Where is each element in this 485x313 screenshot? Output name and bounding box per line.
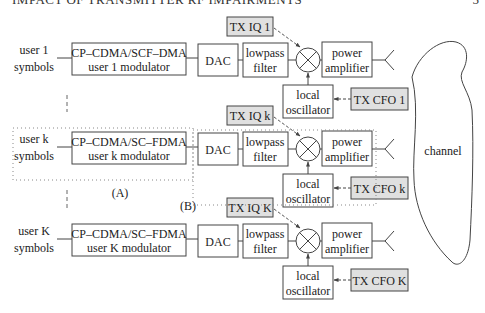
lo-label: local xyxy=(296,177,320,191)
pa-label: amplifier xyxy=(325,61,369,75)
tx-cfo-label: TX CFO k xyxy=(354,182,405,196)
channel-label: channel xyxy=(424,144,462,158)
tx-iq-label: TX IQ 1 xyxy=(230,20,271,34)
lo-label: local xyxy=(296,269,320,283)
lo-label: local xyxy=(296,88,320,102)
user-input-label: symbols xyxy=(14,241,54,255)
lo-label: oscillator xyxy=(286,284,331,298)
user-input-label: symbols xyxy=(14,60,54,74)
modulator-label: CP–CDMA/SC–FDMA xyxy=(71,135,187,149)
group-a-label: (A) xyxy=(112,186,129,200)
modulator-label: CP–CDMA/SCF–DMA xyxy=(71,46,187,60)
modulator-label: user K modulator xyxy=(87,241,171,255)
dac-label: DAC xyxy=(205,54,230,68)
antenna-icon xyxy=(372,50,394,70)
lo-label: oscillator xyxy=(286,103,331,117)
dac-label: DAC xyxy=(205,235,230,249)
user-chain-k: user k symbols CP–CDMA/SC–FDMA user k mo… xyxy=(14,106,408,207)
lowpass-label: filter xyxy=(253,61,276,75)
tx-iq-label: TX IQ k xyxy=(230,109,271,123)
group-b-label: (B) xyxy=(180,199,196,213)
pa-label: power xyxy=(332,46,362,60)
antenna-icon xyxy=(372,139,394,159)
lowpass-label: lowpass xyxy=(246,46,285,60)
dac-label: DAC xyxy=(205,143,230,157)
pa-label: amplifier xyxy=(325,150,369,164)
mixer-icon xyxy=(296,137,320,161)
pa-label: power xyxy=(332,135,362,149)
mixer-icon xyxy=(296,229,320,253)
user-chain-K: user K symbols CP–CDMA/SC–FDMA user K mo… xyxy=(14,198,408,299)
lowpass-label: lowpass xyxy=(246,227,285,241)
antenna-icon xyxy=(372,231,394,251)
lowpass-label: filter xyxy=(253,242,276,256)
modulator-label: CP–CDMA/SC–FDMA xyxy=(71,227,187,241)
lowpass-label: lowpass xyxy=(246,135,285,149)
user-input-label: user k xyxy=(20,132,49,146)
pa-label: amplifier xyxy=(325,242,369,256)
modulator-label: user 1 modulator xyxy=(88,60,169,74)
user-chain-1: user 1 symbols CP–CDMA/SCF–DMA user 1 mo… xyxy=(14,17,408,118)
lo-label: oscillator xyxy=(286,192,331,206)
user-input-label: user K xyxy=(18,224,50,238)
user-input-label: user 1 xyxy=(20,43,49,57)
tx-iq-label: TX IQ K xyxy=(228,201,272,215)
user-input-label: symbols xyxy=(14,149,54,163)
tx-cfo-label: TX CFO 1 xyxy=(354,93,405,107)
lowpass-label: filter xyxy=(253,150,276,164)
pa-label: power xyxy=(332,227,362,241)
tx-cfo-label: TX CFO K xyxy=(352,274,406,288)
transmitter-block-diagram: user 1 symbols CP–CDMA/SCF–DMA user 1 mo… xyxy=(0,0,485,313)
mixer-icon xyxy=(296,48,320,72)
modulator-label: user k modulator xyxy=(88,149,169,163)
